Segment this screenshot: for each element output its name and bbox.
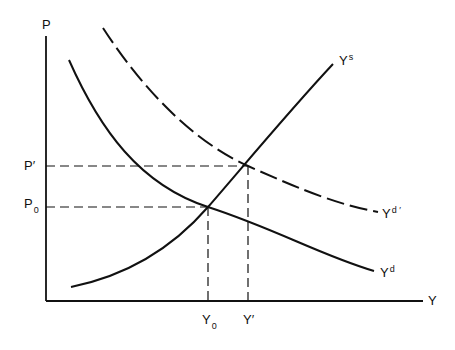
diagram-canvas (0, 0, 455, 350)
ys-curve (71, 64, 333, 287)
yd-label: Yd (380, 266, 394, 279)
ys-label: Ys (339, 54, 352, 67)
p0-label: P0 (24, 197, 38, 210)
yd-prime-curve (103, 28, 378, 212)
y-axis-label: Y (428, 294, 437, 307)
p-axis-label: P (42, 18, 51, 31)
yd-prime-label: Yd ′ (382, 207, 400, 220)
y-prime-label: Y′ (243, 313, 254, 326)
p-prime-label: P′ (24, 159, 35, 172)
y0-label: Y0 (202, 313, 216, 326)
